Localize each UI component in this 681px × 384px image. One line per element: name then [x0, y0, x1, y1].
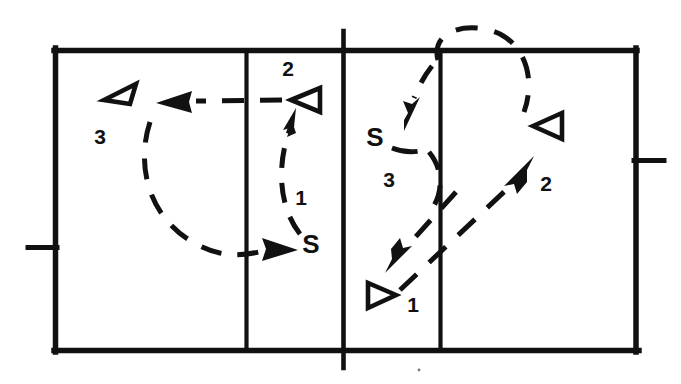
right-setter-label: S: [366, 122, 383, 152]
left-player-3-marker: [104, 84, 136, 104]
left-move-1-sequence-label: 1: [295, 186, 307, 209]
triangle-left-icon: [533, 113, 562, 139]
right-move-2-dashes: [400, 190, 506, 290]
right-move-3-tail-dashes: [392, 148, 424, 152]
right-move-3-descend-dashes: [414, 66, 432, 98]
right-player-2-marker: [533, 113, 562, 139]
triangle-right-icon: [368, 283, 396, 308]
left-player-2-label: 2: [282, 57, 294, 80]
court-diagram-root: 3 2 S 1 S 3: [0, 0, 681, 384]
right-move-3-upper-dashes: [437, 28, 529, 112]
right-move-2-path: [400, 156, 534, 290]
left-player-2-marker: [291, 88, 320, 112]
left-move-3-arrowhead: [262, 238, 298, 261]
left-move-2-dashes: [196, 100, 282, 101]
left-move-2-arrowhead: [156, 91, 192, 113]
right-move-3-loop-dashes: [428, 152, 440, 214]
left-move-3-path: [144, 122, 298, 261]
right-move-3-path: [392, 28, 529, 214]
right-move-1-path: [385, 192, 456, 273]
right-move-3-arrowhead: [403, 97, 420, 131]
right-move-2-arrowhead: [504, 156, 534, 194]
right-player-1-marker: [368, 283, 396, 308]
left-move-3-dashes: [144, 122, 268, 255]
right-move-3-sequence-label: 3: [383, 168, 395, 191]
left-move-1-dashes: [282, 124, 300, 234]
court-boundary-group: [54, 48, 639, 352]
left-player-3-label: 3: [94, 125, 106, 148]
scan-speck: [418, 369, 421, 372]
right-player-1-label: 1: [407, 293, 419, 316]
right-move-1-arrowhead: [385, 238, 412, 273]
right-move-1-dashes: [410, 192, 456, 243]
triangle-up-left-icon: [104, 84, 136, 104]
triangle-left-icon: [291, 88, 320, 112]
left-move-1-arrowhead: [283, 108, 296, 137]
right-player-2-label: 2: [540, 172, 552, 195]
left-setter-label: S: [302, 229, 319, 259]
left-move-1-path: [282, 108, 300, 234]
volleyball-court-diagram: 3 2 S 1 S 3: [0, 0, 681, 384]
left-move-2-path: [156, 91, 282, 113]
